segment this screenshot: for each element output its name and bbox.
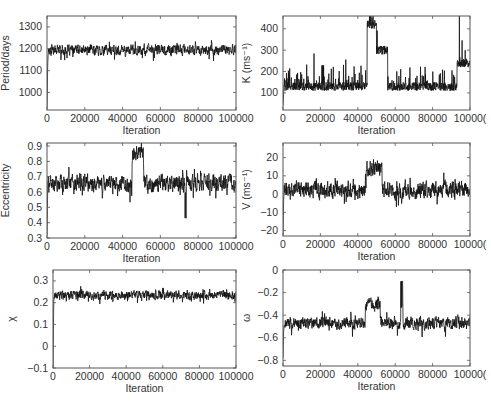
y-tick-label: −0.8 — [257, 354, 278, 366]
x-tick-label: 60000 — [381, 368, 410, 380]
y-tick-label: −0.2 — [257, 286, 278, 298]
trace-line — [283, 281, 470, 358]
x-axis-label: Iteration — [358, 380, 396, 392]
x-tick-label: 80000 — [418, 368, 447, 380]
trace-plot-omega: 02000040000600008000010000(−0.8−0.6−0.4−… — [0, 0, 491, 403]
plot-svg: 02000040000600008000010000(−0.8−0.6−0.4−… — [0, 0, 491, 403]
x-tick-label: 40000 — [343, 368, 372, 380]
x-tick-label: 10000( — [454, 368, 487, 380]
y-tick-label: −0.4 — [257, 309, 278, 321]
y-axis-label: ω — [240, 314, 252, 322]
x-tick-label: 0 — [280, 368, 286, 380]
y-tick-label: −0.6 — [257, 331, 278, 343]
x-tick-label: 20000 — [306, 368, 335, 380]
y-tick-label: 0 — [272, 264, 278, 276]
